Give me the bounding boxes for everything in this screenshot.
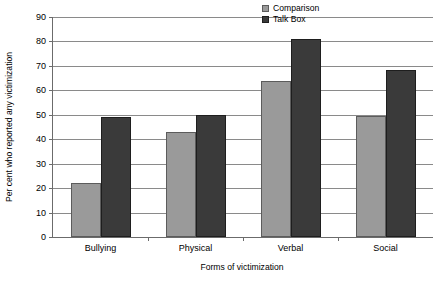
- y-axis-tick-label: 80: [36, 36, 46, 46]
- y-axis-tick: [49, 188, 53, 189]
- x-axis-tick: [338, 237, 339, 241]
- y-axis-tick-label: 90: [36, 12, 46, 22]
- x-axis-label-physical: Physical: [179, 243, 213, 253]
- legend-label-comparison: Comparison: [273, 3, 319, 14]
- y-axis-tick-label: 30: [36, 159, 46, 169]
- y-axis-tick: [49, 139, 53, 140]
- bar-bullying-comparison: [71, 183, 101, 237]
- x-axis-tick: [148, 237, 149, 241]
- legend-label-talk-box: Talk Box: [273, 14, 305, 25]
- x-axis-label-verbal: Verbal: [278, 243, 304, 253]
- y-axis-tick-label: 0: [41, 232, 46, 242]
- bar-social-talk-box: [386, 70, 416, 237]
- x-axis-tick: [243, 237, 244, 241]
- gridline: [53, 17, 433, 18]
- y-axis-tick-label: 70: [36, 61, 46, 71]
- bar-physical-talk-box: [196, 115, 226, 237]
- legend-swatch-comparison: [262, 5, 269, 12]
- y-axis-title: Per cent who reported any victimization: [2, 17, 16, 237]
- legend-item-talk-box: Talk Box: [262, 14, 319, 25]
- legend-swatch-talk-box: [262, 16, 269, 23]
- y-axis-tick-label: 10: [36, 208, 46, 218]
- y-axis-tick: [49, 115, 53, 116]
- bar-bullying-talk-box: [101, 117, 131, 237]
- y-axis-tick-label: 20: [36, 183, 46, 193]
- bar-verbal-talk-box: [291, 39, 321, 237]
- y-axis-tick-label: 60: [36, 85, 46, 95]
- y-axis-tick: [49, 164, 53, 165]
- gridline: [53, 90, 433, 91]
- x-axis-label-social: Social: [373, 243, 398, 253]
- y-axis-tick-label: 40: [36, 134, 46, 144]
- gridline: [53, 41, 433, 42]
- legend: Comparison Talk Box: [262, 3, 319, 25]
- bar-chart: Per cent who reported any victimization …: [0, 0, 437, 282]
- plot-area: 0102030405060708090BullyingPhysicalVerba…: [52, 17, 433, 238]
- gridline: [53, 66, 433, 67]
- y-axis-tick: [49, 17, 53, 18]
- bar-verbal-comparison: [261, 81, 291, 237]
- y-axis-tick: [49, 213, 53, 214]
- y-axis-tick: [49, 90, 53, 91]
- bar-social-comparison: [356, 116, 386, 237]
- bar-physical-comparison: [166, 132, 196, 237]
- y-axis-tick: [49, 66, 53, 67]
- y-axis-tick: [49, 41, 53, 42]
- x-axis-title: Forms of victimization: [52, 262, 432, 272]
- x-axis-label-bullying: Bullying: [85, 243, 117, 253]
- y-axis-tick-label: 50: [36, 110, 46, 120]
- legend-item-comparison: Comparison: [262, 3, 319, 14]
- y-axis-tick: [49, 237, 53, 238]
